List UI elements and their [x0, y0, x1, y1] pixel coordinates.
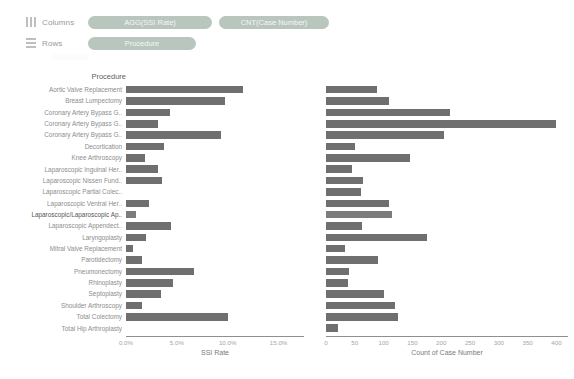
row-label[interactable]: Laparoscopic Inguinal Her..	[0, 164, 126, 175]
bar-ssi-rate[interactable]	[126, 222, 171, 230]
bar-case-count[interactable]	[326, 188, 361, 196]
bar-case-count[interactable]	[326, 120, 556, 128]
bar-case-count[interactable]	[326, 86, 377, 94]
table-row[interactable]	[326, 84, 568, 95]
table-row[interactable]	[326, 220, 568, 231]
pill-procedure[interactable]: Procedure	[88, 37, 196, 50]
table-row[interactable]	[326, 198, 568, 209]
table-row[interactable]	[126, 209, 304, 220]
bar-case-count[interactable]	[326, 256, 378, 264]
pane-ssi-rate[interactable]	[126, 84, 304, 334]
table-row[interactable]	[126, 311, 304, 322]
table-row[interactable]	[326, 277, 568, 288]
bar-case-count[interactable]	[326, 200, 389, 208]
table-row[interactable]	[126, 323, 304, 334]
bar-ssi-rate[interactable]	[126, 154, 145, 162]
bar-ssi-rate[interactable]	[126, 97, 225, 105]
row-label[interactable]: Pneumonectomy	[0, 266, 126, 277]
table-row[interactable]	[326, 152, 568, 163]
row-label[interactable]: Coronary Artery Bypass G..	[0, 129, 126, 140]
bar-case-count[interactable]	[326, 143, 355, 151]
bar-case-count[interactable]	[326, 234, 427, 242]
row-label[interactable]: Total Colectomy	[0, 311, 126, 322]
table-row[interactable]	[126, 232, 304, 243]
pill-agg-ssi-rate[interactable]: AGG(SSI Rate)	[88, 16, 212, 29]
table-row[interactable]	[126, 266, 304, 277]
bar-ssi-rate[interactable]	[126, 234, 146, 242]
table-row[interactable]	[326, 311, 568, 322]
table-row[interactable]	[126, 300, 304, 311]
table-row[interactable]	[126, 107, 304, 118]
table-row[interactable]	[326, 164, 568, 175]
table-row[interactable]	[326, 186, 568, 197]
row-label[interactable]: Decortication	[0, 141, 126, 152]
table-row[interactable]	[126, 175, 304, 186]
bar-ssi-rate[interactable]	[126, 279, 173, 287]
table-row[interactable]	[126, 84, 304, 95]
row-label[interactable]: Mitral Valve Replacement	[0, 243, 126, 254]
row-label[interactable]: Shoulder Arthroscopy	[0, 300, 126, 311]
table-row[interactable]	[126, 254, 304, 265]
table-row[interactable]	[326, 323, 568, 334]
row-label[interactable]: Laparoscopic/Laparoscopic Ap..	[0, 209, 126, 220]
bar-ssi-rate[interactable]	[126, 268, 194, 276]
table-row[interactable]	[326, 266, 568, 277]
bar-case-count[interactable]	[326, 165, 352, 173]
table-row[interactable]	[326, 254, 568, 265]
bar-ssi-rate[interactable]	[126, 109, 170, 117]
bar-case-count[interactable]	[326, 302, 395, 310]
table-row[interactable]	[126, 152, 304, 163]
row-label[interactable]: Knee Arthroscopy	[0, 152, 126, 163]
table-row[interactable]	[326, 141, 568, 152]
table-row[interactable]	[326, 288, 568, 299]
bar-ssi-rate[interactable]	[126, 120, 158, 128]
table-row[interactable]	[326, 300, 568, 311]
row-label[interactable]: Parotidectomy	[0, 254, 126, 265]
bar-case-count[interactable]	[326, 245, 345, 253]
table-row[interactable]	[326, 95, 568, 106]
pill-cnt-case-number[interactable]: CNT(Case Number)	[219, 16, 329, 29]
table-row[interactable]	[126, 141, 304, 152]
bar-ssi-rate[interactable]	[126, 131, 221, 139]
rows-shelf[interactable]: Rows Procedure	[26, 34, 203, 52]
bar-case-count[interactable]	[326, 177, 363, 185]
bar-case-count[interactable]	[326, 222, 362, 230]
row-label[interactable]: Coronary Artery Bypass G..	[0, 118, 126, 129]
bar-ssi-rate[interactable]	[126, 313, 228, 321]
bar-case-count[interactable]	[326, 131, 444, 139]
table-row[interactable]	[126, 186, 304, 197]
bar-ssi-rate[interactable]	[126, 302, 142, 310]
row-label[interactable]: Laparoscopic Ventral Her..	[0, 198, 126, 209]
row-label[interactable]: Aortic Valve Replacement	[0, 84, 126, 95]
bar-ssi-rate[interactable]	[126, 143, 164, 151]
pane-case-count[interactable]	[326, 84, 568, 334]
bar-ssi-rate[interactable]	[126, 211, 136, 219]
bar-case-count[interactable]	[326, 211, 392, 219]
table-row[interactable]	[126, 95, 304, 106]
bar-ssi-rate[interactable]	[126, 245, 133, 253]
row-label[interactable]: Laparoscopic Nissen Fund..	[0, 175, 126, 186]
table-row[interactable]	[126, 288, 304, 299]
bar-case-count[interactable]	[326, 279, 348, 287]
table-row[interactable]	[126, 164, 304, 175]
row-label[interactable]: Laparoscopic Partial Colec..	[0, 186, 126, 197]
row-label[interactable]: Total Hip Arthroplasty	[0, 323, 126, 334]
table-row[interactable]	[326, 129, 568, 140]
bar-case-count[interactable]	[326, 268, 349, 276]
row-label[interactable]: Breast Lumpectomy	[0, 95, 126, 106]
row-label[interactable]: Laryngoplasty	[0, 232, 126, 243]
table-row[interactable]	[126, 129, 304, 140]
table-row[interactable]	[326, 118, 568, 129]
bar-ssi-rate[interactable]	[126, 256, 142, 264]
table-row[interactable]	[326, 107, 568, 118]
table-row[interactable]	[326, 232, 568, 243]
table-row[interactable]	[126, 118, 304, 129]
bar-case-count[interactable]	[326, 97, 389, 105]
bar-ssi-rate[interactable]	[126, 86, 243, 94]
table-row[interactable]	[126, 198, 304, 209]
row-label[interactable]: Septoplasty	[0, 288, 126, 299]
bar-case-count[interactable]	[326, 109, 450, 117]
bar-case-count[interactable]	[326, 290, 384, 298]
table-row[interactable]	[126, 243, 304, 254]
columns-shelf[interactable]: Columns AGG(SSI Rate) CNT(Case Number)	[26, 13, 336, 31]
